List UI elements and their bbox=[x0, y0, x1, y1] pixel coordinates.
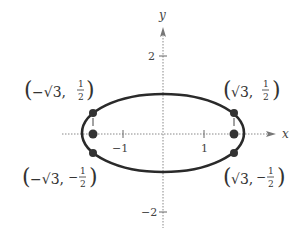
y-axis-label: y bbox=[158, 8, 166, 22]
label-lower-left: ( −√3, − 1 2 ) bbox=[22, 164, 98, 189]
label-ll-minus: − bbox=[68, 170, 78, 184]
x-axis-label: x bbox=[282, 127, 289, 141]
label-ul-num: 1 bbox=[78, 79, 84, 89]
point-right-focus bbox=[230, 130, 239, 139]
svg-text:): ) bbox=[86, 77, 95, 102]
label-lr-num: 1 bbox=[268, 166, 274, 176]
label-lower-right: ( √3, − 1 2 ) bbox=[223, 164, 286, 189]
point-upper-right bbox=[230, 109, 238, 117]
point-lower-left bbox=[89, 149, 97, 157]
x-tick-label-neg1: −1 bbox=[112, 142, 128, 155]
label-ur-num: 1 bbox=[263, 79, 269, 89]
point-lower-right bbox=[230, 149, 238, 157]
label-ur-x: √3, bbox=[231, 84, 253, 100]
ellipse-diagram: x y −1 1 2 −2 ( −√3, 1 2 ) ( √3, 1 2 ) ( bbox=[0, 0, 305, 230]
label-ul-den: 2 bbox=[78, 92, 84, 102]
x-tick-label-1: 1 bbox=[201, 142, 208, 155]
label-ll-x: −√3, bbox=[30, 171, 64, 187]
svg-text:): ) bbox=[89, 164, 98, 189]
label-ur-den: 2 bbox=[263, 92, 269, 102]
svg-text:): ) bbox=[277, 164, 286, 189]
ellipse-curve bbox=[82, 94, 244, 172]
label-lr-minus: − bbox=[256, 170, 266, 184]
y-tick-label-2: 2 bbox=[148, 50, 155, 63]
label-lr-x: √3, bbox=[231, 171, 253, 187]
label-ll-den: 2 bbox=[80, 179, 86, 189]
point-left-focus bbox=[89, 130, 98, 139]
label-upper-left: ( −√3, 1 2 ) bbox=[24, 77, 95, 102]
svg-text:): ) bbox=[272, 77, 281, 102]
label-ll-num: 1 bbox=[80, 166, 86, 176]
point-upper-left bbox=[89, 109, 97, 117]
y-tick-label-neg2: −2 bbox=[141, 206, 157, 219]
label-lr-den: 2 bbox=[268, 179, 274, 189]
label-upper-right: ( √3, 1 2 ) bbox=[223, 77, 281, 102]
label-ul-x: −√3, bbox=[32, 84, 66, 100]
